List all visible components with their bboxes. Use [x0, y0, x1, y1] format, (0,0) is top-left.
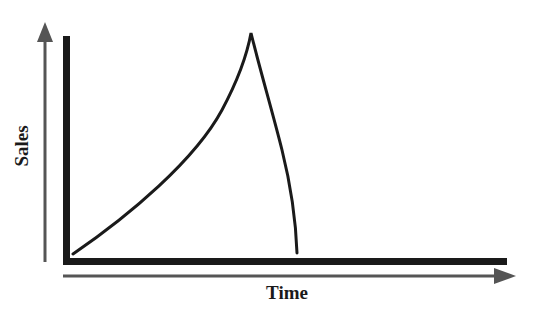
- x-axis-label: Time: [266, 282, 308, 304]
- x-axis: [63, 258, 507, 265]
- x-arrow-head-icon: [494, 268, 516, 284]
- y-axis: [63, 36, 70, 265]
- y-arrow-head-icon: [37, 22, 53, 42]
- sales-curve: [73, 33, 297, 254]
- y-axis-label: Sales: [11, 125, 33, 166]
- chart-figure: Sales Time: [0, 0, 545, 313]
- chart-canvas: [0, 0, 545, 313]
